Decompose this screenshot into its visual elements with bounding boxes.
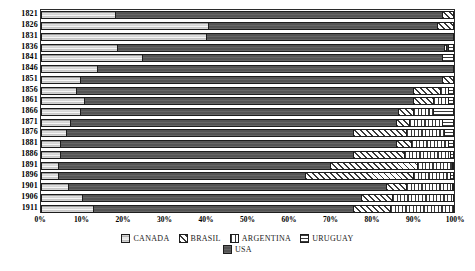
y-axis-category-labels: 1821182618311836184118461851185618611866…: [0, 9, 38, 213]
bar-row: [41, 87, 454, 95]
y-tick-label: 1821: [2, 10, 38, 18]
bar-segment-argentina: [413, 108, 434, 116]
y-tick-label: 1896: [2, 171, 38, 179]
y-tick-label: 1876: [2, 128, 38, 136]
bar-segment-brasil: [353, 205, 390, 213]
bar-segment-argentina: [440, 87, 448, 95]
bar-segment-brasil: [305, 172, 412, 180]
usa-swatch: [223, 245, 232, 254]
bar-segment-usa: [70, 119, 396, 127]
bar-segment-canada: [41, 162, 58, 170]
bar-segment-argentina: [417, 162, 452, 170]
bar-segment-uruguay: [448, 140, 454, 148]
y-tick-label: 1856: [2, 86, 38, 94]
bar-row: [41, 76, 454, 84]
bar-segment-canada: [41, 97, 84, 105]
bar-segment-canada: [41, 44, 117, 52]
y-tick-label: 1831: [2, 32, 38, 40]
bar-segment-usa: [58, 162, 331, 170]
bar-segment-uruguay: [452, 183, 454, 191]
bar-segment-brasil: [442, 11, 454, 19]
bar-segment-canada: [41, 151, 60, 159]
chart-legend: CANADABRASILARGENTINAURUGUAYUSA: [0, 234, 475, 254]
bar-segment-uruguay: [452, 162, 454, 170]
bar-segment-brasil: [398, 108, 412, 116]
bar-segment-uruguay: [448, 97, 454, 105]
legend-item-brasil[interactable]: BRASIL: [179, 234, 221, 243]
bar-row: [41, 151, 454, 159]
x-tick-label: 60%: [282, 215, 297, 224]
bar-segment-argentina: [390, 205, 454, 213]
bar-segment-argentina: [406, 183, 451, 191]
bar-segment-usa: [68, 183, 386, 191]
bar-row: [41, 172, 454, 180]
x-tick-label: 90%: [406, 215, 421, 224]
bar-segment-usa: [80, 76, 441, 84]
legend-row: USA: [223, 245, 252, 254]
bar-segment-uruguay: [442, 54, 454, 62]
legend-item-canada[interactable]: CANADA: [121, 234, 169, 243]
legend-label: CANADA: [133, 234, 169, 243]
bar-segment-canada: [41, 183, 68, 191]
bar-row: [41, 140, 454, 148]
bar-row: [41, 97, 454, 105]
y-tick-label: 1846: [2, 64, 38, 72]
bar-row: [41, 183, 454, 191]
bar-segment-argentina: [433, 97, 447, 105]
y-tick-label: 1841: [2, 53, 38, 61]
bar-row: [41, 205, 454, 213]
legend-item-usa[interactable]: USA: [223, 245, 252, 254]
argentina-swatch: [230, 234, 239, 243]
bar-row: [41, 119, 454, 127]
bar-segment-canada: [41, 11, 115, 19]
bar-segment-usa: [76, 87, 413, 95]
bar-row: [41, 22, 454, 30]
bar-segment-brasil: [386, 183, 407, 191]
bar-segment-argentina: [392, 194, 454, 202]
bar-segment-canada: [41, 119, 70, 127]
legend-item-uruguay[interactable]: URUGUAY: [300, 234, 353, 243]
y-tick-label: 1871: [2, 118, 38, 126]
bars-container: [41, 10, 454, 212]
bar-segment-brasil: [353, 151, 405, 159]
bar-segment-usa: [142, 54, 441, 62]
x-tick-label: 30%: [157, 215, 172, 224]
bar-row: [41, 65, 454, 73]
x-tick-label: 20%: [116, 215, 131, 224]
bar-segment-usa: [97, 65, 454, 73]
bar-segment-argentina: [411, 140, 448, 148]
bar-segment-brasil: [413, 97, 434, 105]
plot-area: [40, 9, 455, 213]
bar-segment-argentina: [413, 172, 450, 180]
bar-row: [41, 44, 454, 52]
canada-swatch: [121, 234, 130, 243]
x-tick-label: 40%: [199, 215, 214, 224]
bar-segment-usa: [206, 33, 454, 41]
bar-row: [41, 11, 454, 19]
bar-segment-canada: [41, 108, 80, 116]
legend-label: USA: [235, 245, 252, 254]
y-tick-label: 1901: [2, 182, 38, 190]
x-tick-label: 50%: [240, 215, 255, 224]
bar-segment-brasil: [437, 22, 454, 30]
bar-segment-uruguay: [450, 172, 454, 180]
x-tick-label: 100%: [446, 215, 465, 224]
bar-row: [41, 33, 454, 41]
y-tick-label: 1911: [2, 204, 38, 212]
bar-segment-brasil: [353, 129, 407, 137]
bar-segment-uruguay: [444, 129, 454, 137]
x-tick-label: 70%: [323, 215, 338, 224]
legend-label: BRASIL: [191, 234, 221, 243]
bar-segment-canada: [41, 65, 97, 73]
bar-segment-usa: [60, 140, 397, 148]
bar-segment-canada: [41, 205, 93, 213]
bar-segment-canada: [41, 140, 60, 148]
bar-segment-uruguay: [448, 44, 454, 52]
legend-item-argentina[interactable]: ARGENTINA: [230, 234, 291, 243]
bar-segment-usa: [58, 172, 306, 180]
bar-segment-brasil: [396, 140, 410, 148]
bar-segment-argentina: [409, 119, 442, 127]
x-tick-label: 10%: [74, 215, 89, 224]
legend-row: CANADABRASILARGENTINAURUGUAY: [121, 234, 353, 243]
bar-segment-usa: [60, 151, 353, 159]
